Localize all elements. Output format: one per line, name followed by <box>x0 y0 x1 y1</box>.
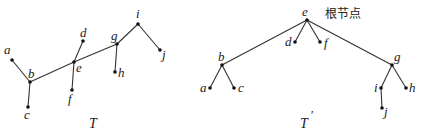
edge-b-c <box>28 82 30 107</box>
edge-e-f <box>72 62 74 90</box>
caption-prime: ' <box>310 107 313 122</box>
node-label-h: h <box>118 65 125 80</box>
node-i <box>136 22 140 26</box>
node-label-b: b <box>28 66 35 81</box>
tree-T: abcedfghijT <box>4 6 166 131</box>
edge-b-e <box>30 62 74 82</box>
node-label-b: b <box>218 49 225 64</box>
edge-g-h <box>392 65 406 88</box>
node-h <box>404 86 408 90</box>
edge-i-j <box>381 88 382 108</box>
node-label-e: e <box>76 60 82 75</box>
node-label-e: e <box>302 4 308 19</box>
node-label-g: g <box>111 28 118 43</box>
node-label-f: f <box>68 91 74 106</box>
node-label-i: i <box>374 80 378 95</box>
node-label-g: g <box>394 49 401 64</box>
node-i <box>379 86 383 90</box>
node-label-c: c <box>24 107 30 122</box>
node-a <box>208 86 212 90</box>
node-label-f: f <box>324 35 330 50</box>
node-d <box>293 40 297 44</box>
edge-i-j <box>138 24 160 50</box>
node-f <box>318 40 322 44</box>
node-label-d: d <box>285 34 292 49</box>
tree-diagram: abcedfghijT edfbacgihjT'根节点 <box>0 0 424 134</box>
edge-g-h <box>115 44 117 72</box>
edge-g-i <box>381 65 392 88</box>
node-label-a: a <box>4 42 11 57</box>
tree-caption: T <box>300 116 309 131</box>
node-label-j: j <box>382 104 388 119</box>
node-label-c: c <box>238 80 244 95</box>
node-c <box>232 86 236 90</box>
node-label-i: i <box>136 6 140 21</box>
node-label-h: h <box>409 80 416 95</box>
edge-b-a <box>210 65 222 88</box>
tree-caption: T <box>89 116 98 131</box>
tree-T-prime: edfbacgihjT'根节点 <box>200 4 416 131</box>
node-a <box>10 58 14 62</box>
node-label-d: d <box>80 25 87 40</box>
root-node-annotation: 根节点 <box>325 7 361 21</box>
edge-b-c <box>222 65 234 88</box>
node-label-a: a <box>200 80 207 95</box>
node-h <box>113 70 117 74</box>
edge-g-i <box>117 24 138 44</box>
